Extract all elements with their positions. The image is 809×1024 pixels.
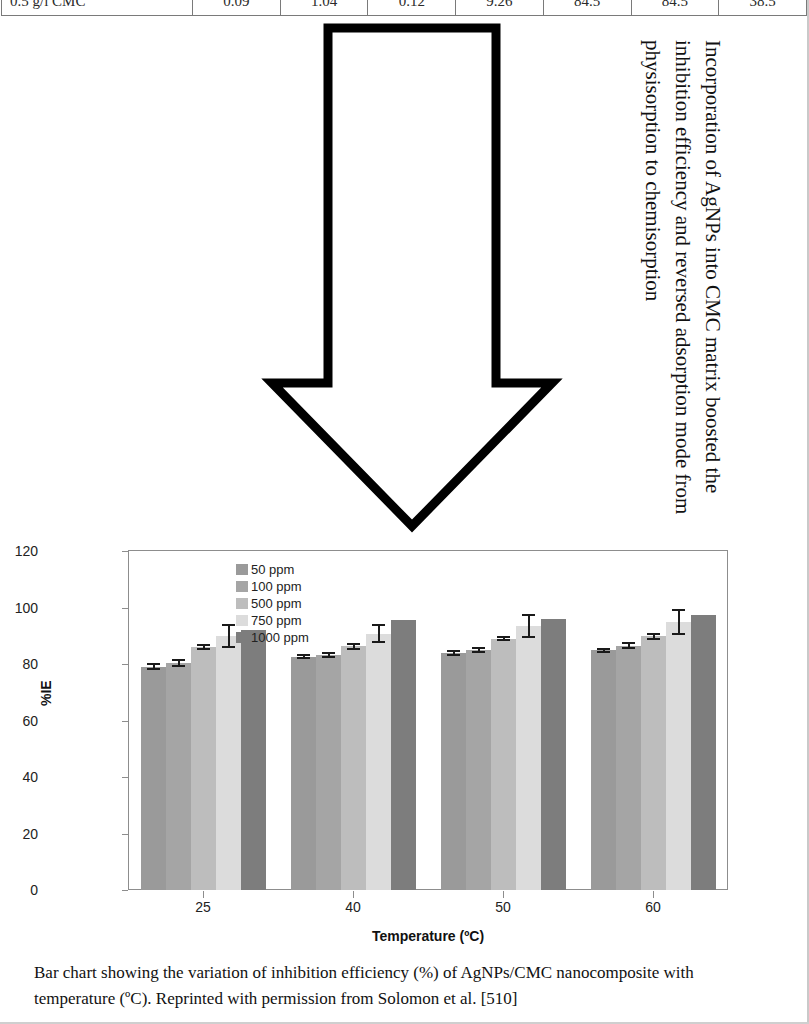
bar-group <box>441 551 566 890</box>
error-bar <box>597 648 610 654</box>
legend-swatch <box>236 615 248 626</box>
error-bar <box>322 652 335 658</box>
data-table: 0.5 g/l CMC 0.09 1.04 0.12 9.26 84.5 84.… <box>0 0 809 16</box>
error-bar <box>672 609 685 634</box>
y-tick-label: 60 <box>0 713 38 729</box>
legend-label: 750 ppm <box>251 613 302 628</box>
legend-swatch <box>236 632 248 643</box>
y-tick-label: 0 <box>0 882 38 898</box>
bar-group <box>291 551 416 890</box>
bar <box>691 615 716 890</box>
bar <box>191 647 216 890</box>
bar <box>166 663 191 890</box>
error-bar <box>297 654 310 659</box>
legend-label: 1000 ppm <box>251 630 309 645</box>
down-arrow-icon <box>252 18 572 538</box>
x-tick-label: 50 <box>443 899 563 915</box>
bar <box>491 639 516 890</box>
bar <box>616 646 641 890</box>
error-bar <box>472 647 485 653</box>
callout-arrow: Incorporation of AgNPs into CMC matrix b… <box>252 18 572 538</box>
error-bar <box>147 663 160 670</box>
legend-swatch <box>236 564 248 575</box>
bar <box>316 655 341 890</box>
bar <box>216 636 241 890</box>
table-element: 0.5 g/l CMC 0.09 1.04 0.12 9.26 84.5 84.… <box>1 0 807 16</box>
table-cell-5: 84.5 <box>631 0 719 16</box>
error-bar <box>647 633 660 640</box>
x-tick-mark <box>353 891 354 898</box>
bar <box>541 619 566 890</box>
error-bar <box>497 636 510 642</box>
bar <box>441 653 466 890</box>
y-tick-label: 120 <box>0 543 38 559</box>
legend-swatch <box>236 581 248 592</box>
error-bar <box>622 642 635 649</box>
legend-label: 50 ppm <box>251 562 294 577</box>
table-cell-4: 84.5 <box>543 0 631 16</box>
y-tick-label: 80 <box>0 656 38 672</box>
y-tick-label: 20 <box>0 826 38 842</box>
bar <box>241 630 266 890</box>
error-bar <box>372 624 385 644</box>
legend-swatch <box>236 598 248 609</box>
y-tick-mark <box>122 890 128 891</box>
figure-caption: Bar chart showing the variation of inhib… <box>34 960 774 1012</box>
legend-item: 1000 ppm <box>236 629 309 646</box>
chart-legend: 50 ppm100 ppm500 ppm750 ppm1000 ppm <box>236 561 309 646</box>
bar <box>291 657 316 890</box>
legend-item: 100 ppm <box>236 578 309 595</box>
bar <box>391 620 416 890</box>
x-tick-label: 40 <box>293 899 413 915</box>
error-bar <box>522 614 535 638</box>
legend-item: 500 ppm <box>236 595 309 612</box>
bar-chart: 02040608010012025405060 50 ppm100 ppm500… <box>40 543 740 943</box>
legend-item: 50 ppm <box>236 561 309 578</box>
error-bar <box>172 659 185 667</box>
error-bar <box>447 650 460 656</box>
y-tick-label: 40 <box>0 769 38 785</box>
bar <box>516 626 541 890</box>
table-row: 0.5 g/l CMC 0.09 1.04 0.12 9.26 84.5 84.… <box>2 0 807 16</box>
table-cell-label: 0.5 g/l CMC <box>2 0 193 16</box>
callout-text: Incorporation of AgNPs into CMC matrix b… <box>638 40 728 556</box>
page: 0.5 g/l CMC 0.09 1.04 0.12 9.26 84.5 84.… <box>0 0 809 1024</box>
y-tick-label: 100 <box>0 600 38 616</box>
table-cell-1: 1.04 <box>280 0 368 16</box>
error-bar <box>222 624 235 648</box>
y-axis-title: %IE <box>38 680 54 706</box>
bar <box>366 634 391 891</box>
x-tick-label: 25 <box>143 899 263 915</box>
legend-label: 500 ppm <box>251 596 302 611</box>
x-tick-mark <box>503 891 504 898</box>
bar <box>466 650 491 890</box>
x-tick-mark <box>653 891 654 898</box>
bar <box>666 622 691 890</box>
x-tick-label: 60 <box>593 899 713 915</box>
bar <box>591 650 616 890</box>
legend-item: 750 ppm <box>236 612 309 629</box>
table-cell-2: 0.12 <box>368 0 456 16</box>
bar-group <box>591 551 716 890</box>
bar <box>341 646 366 890</box>
bars-layer <box>128 551 728 890</box>
error-bar <box>197 644 210 651</box>
x-tick-mark <box>203 891 204 898</box>
legend-label: 100 ppm <box>251 579 302 594</box>
table-cell-0: 0.09 <box>193 0 281 16</box>
bar <box>141 667 166 890</box>
table-cell-3: 9.26 <box>456 0 544 16</box>
table-cell-6: 38.5 <box>719 0 807 16</box>
x-axis-title: Temperature (ºC) <box>128 928 728 944</box>
error-bar <box>347 643 360 650</box>
bar <box>641 636 666 890</box>
